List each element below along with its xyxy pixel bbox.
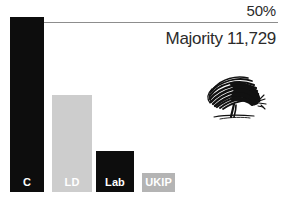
threshold-label-50-percent: 50%: [247, 2, 276, 20]
majority-caption: Majority 11,729: [166, 28, 276, 49]
threshold-line: [44, 22, 278, 23]
election-bar-chart: 50% Majority 11,729 C LD Lab UKIP: [0, 0, 284, 200]
bar-ukip: UKIP: [142, 173, 175, 192]
bar-label-labour: Lab: [96, 176, 134, 188]
oak-tree-icon: [202, 66, 270, 122]
bar-label-conservative: C: [10, 176, 44, 188]
bar-liberal-democrat: LD: [52, 95, 92, 192]
bar-labour: Lab: [96, 151, 134, 192]
bar-conservative: C: [10, 17, 44, 192]
bar-label-ukip: UKIP: [142, 176, 175, 188]
bar-label-liberal-democrat: LD: [52, 176, 92, 188]
